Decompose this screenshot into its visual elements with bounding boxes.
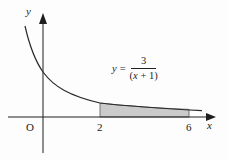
function-plot-figure: y x O 2 6 y = 3 (x + 1) [0, 0, 228, 160]
equation-fraction: 3 (x + 1) [130, 55, 158, 82]
x-axis-label: x [207, 120, 212, 131]
equation-numerator: 3 [131, 55, 156, 69]
x-tick-2: 2 [97, 122, 103, 133]
denominator-rest: + 1) [138, 70, 158, 81]
equation-lhs-variable: y [112, 63, 117, 74]
x-tick-6: 6 [186, 122, 192, 133]
y-axis-label: y [26, 6, 31, 17]
equation-equals-sign: = [120, 63, 126, 74]
y-axis-arrow-icon [39, 13, 47, 24]
shaded-region-under-curve [100, 103, 189, 117]
origin-label: O [26, 122, 34, 133]
equation-annotation: y = 3 (x + 1) [112, 55, 158, 82]
equation-denominator: (x + 1) [130, 69, 158, 82]
